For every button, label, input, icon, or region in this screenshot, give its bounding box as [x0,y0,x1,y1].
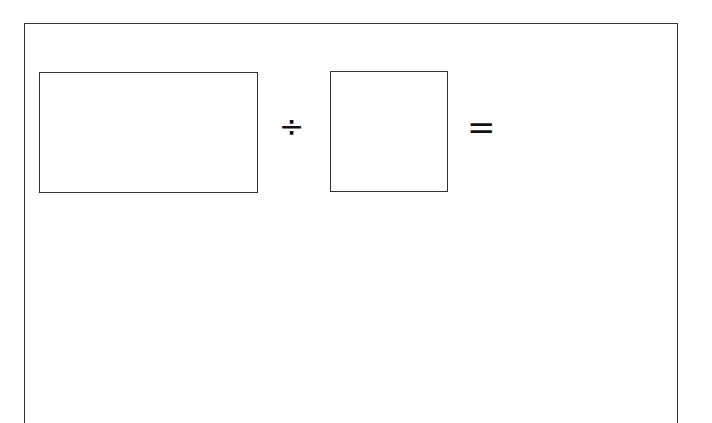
equals-sign: = [467,110,496,144]
dividend-box[interactable] [39,72,258,193]
divide-sign: ÷ [279,112,304,142]
divisor-box[interactable] [330,71,448,192]
